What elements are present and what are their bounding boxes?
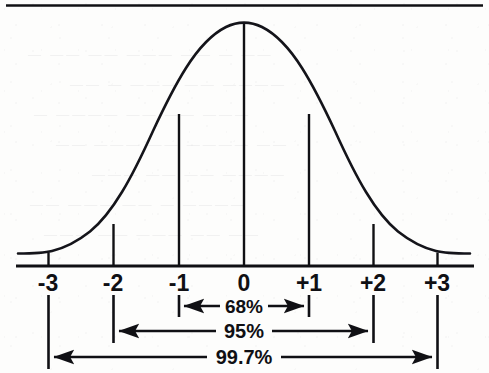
- axis-tick-label-minus1: -1: [169, 272, 189, 295]
- normal-distribution-figure: — —— —— ——— —— — ———— — ——— —— ————— ———…: [0, 0, 489, 373]
- bell-curve-diagram: [0, 0, 489, 373]
- axis-tick-label-plus3: +3: [424, 272, 450, 295]
- axis-tick-label-minus3: -3: [38, 272, 58, 295]
- axis-tick-label-plus1: +1: [296, 272, 322, 295]
- bracket-95-label: 95%: [219, 321, 269, 341]
- axis-tick-label-plus2: +2: [360, 272, 386, 295]
- ordinate-lines-group: [49, 24, 438, 267]
- bracket-997-label: 99.7%: [211, 347, 278, 367]
- axis-tick-label-minus2: -2: [103, 272, 123, 295]
- bracket-68-label: 68%: [220, 297, 268, 316]
- axis-tick-label-zero: 0: [238, 272, 251, 295]
